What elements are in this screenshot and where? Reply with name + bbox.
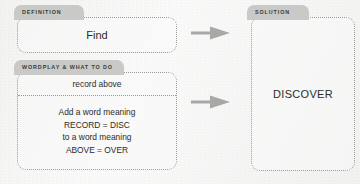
solution-card: DISCOVER — [251, 17, 355, 171]
wordplay-card: record above Add a word meaning RECORD =… — [17, 72, 177, 170]
solution-tab: SOLUTION — [247, 5, 309, 20]
wordplay-step: RECORD = DISC — [64, 120, 130, 132]
arrow-definition-to-solution-icon — [190, 25, 232, 41]
arrow-wordplay-to-solution-icon — [190, 94, 232, 110]
wordplay-panel: WORDPLAY & WHAT TO DO record above Add a… — [14, 60, 180, 172]
solution-panel: SOLUTION DISCOVER — [245, 5, 357, 173]
wordplay-step: ABOVE = OVER — [66, 145, 128, 157]
wordplay-tab-label: WORDPLAY & WHAT TO DO — [22, 65, 113, 70]
wordplay-tab: WORDPLAY & WHAT TO DO — [14, 60, 124, 75]
definition-card: Find — [17, 17, 177, 53]
definition-text: Find — [86, 29, 107, 41]
wordplay-step: Add a word meaning — [59, 107, 136, 119]
wordplay-step: to a word meaning — [63, 132, 132, 144]
solution-answer: DISCOVER — [273, 88, 333, 100]
definition-panel: DEFINITION Find — [14, 5, 180, 55]
solution-tab-label: SOLUTION — [255, 10, 290, 15]
wordplay-steps-list: Add a word meaning RECORD = DISC to a wo… — [18, 96, 176, 169]
clue-explanation-diagram: DEFINITION Find WORDPLAY & WHAT TO DO re… — [0, 0, 360, 184]
definition-tab-label: DEFINITION — [22, 10, 62, 15]
definition-tab: DEFINITION — [14, 5, 84, 20]
wordplay-cryptic-text: record above — [18, 73, 176, 96]
